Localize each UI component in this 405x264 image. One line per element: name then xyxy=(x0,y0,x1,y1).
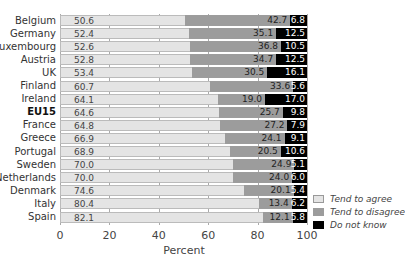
category-label: France xyxy=(23,119,56,131)
value-label: 50.6 xyxy=(74,15,94,27)
bar-segment-dk: 7.9 xyxy=(287,120,307,131)
gridline xyxy=(307,14,308,225)
bar-row: 70.024.95.1 xyxy=(60,159,307,170)
bar-segment-disagree: 19.0 xyxy=(218,94,265,105)
value-label: 34.7 xyxy=(253,53,273,65)
legend-label: Tend to disagree xyxy=(330,207,405,217)
bar-row: 82.112.15.8 xyxy=(60,212,307,223)
value-label: 42.7 xyxy=(267,14,287,26)
bar-segment-dk: 9.1 xyxy=(285,133,307,144)
bar-segment-dk: 9.8 xyxy=(283,107,307,118)
bar-row: 52.435.112.5 xyxy=(60,28,307,39)
value-label: 70.0 xyxy=(74,172,94,184)
bar-row: 66.924.19.1 xyxy=(60,133,307,144)
bar-segment-disagree: 34.7 xyxy=(190,54,276,65)
value-label: 25.7 xyxy=(260,106,280,118)
value-label: 64.6 xyxy=(74,107,94,119)
legend-swatch xyxy=(313,221,324,229)
legend-item: Tend to disagree xyxy=(313,206,405,218)
legend-label: Tend to agree xyxy=(330,194,392,204)
bar-segment-dk: 10.6 xyxy=(281,146,307,157)
bar-row: 64.119.017.0 xyxy=(60,94,307,105)
value-label: 24.9 xyxy=(271,158,291,170)
value-label: 64.1 xyxy=(74,94,94,106)
bar-segment-disagree: 33.6 xyxy=(210,81,293,92)
category-label: Greece xyxy=(20,132,56,144)
bar-segment-disagree: 20.1 xyxy=(244,185,294,196)
value-label: 27.2 xyxy=(264,119,284,131)
category-label: Austria xyxy=(21,54,56,66)
legend-item: Do not know xyxy=(313,219,405,231)
x-tick-label: 40 xyxy=(152,229,166,242)
bar-segment-agree: 52.8 xyxy=(60,54,190,65)
plot-area: 50.642.76.852.435.112.552.636.810.552.83… xyxy=(60,14,307,225)
value-label: 33.6 xyxy=(270,80,290,92)
bar-segment-agree: 70.0 xyxy=(60,159,233,170)
value-label: 36.8 xyxy=(258,40,278,52)
bar-segment-dk: 6.0 xyxy=(292,172,307,183)
bar-row: 52.636.810.5 xyxy=(60,41,307,52)
value-label: 6.8 xyxy=(291,14,305,26)
bar-segment-agree: 82.1 xyxy=(60,212,263,223)
bar-segment-disagree: 24.0 xyxy=(233,172,292,183)
value-label: 52.8 xyxy=(74,54,94,66)
bar-segment-agree: 68.9 xyxy=(60,146,230,157)
legend-swatch xyxy=(313,195,324,203)
value-label: 19.0 xyxy=(242,93,262,105)
value-label: 16.1 xyxy=(285,66,305,78)
bar-row: 50.642.76.8 xyxy=(60,15,307,26)
bar-segment-agree: 53.4 xyxy=(60,67,192,78)
value-label: 5.1 xyxy=(291,158,305,170)
bar-segment-disagree: 35.1 xyxy=(189,28,276,39)
value-label: 68.9 xyxy=(74,146,94,158)
bar-segment-agree: 60.7 xyxy=(60,81,210,92)
value-label: 20.1 xyxy=(271,184,291,196)
bar-row: 70.024.06.0 xyxy=(60,172,307,183)
bar-segment-disagree: 13.4 xyxy=(259,198,292,209)
value-label: 17.0 xyxy=(285,93,305,105)
bar-segment-agree: 64.8 xyxy=(60,120,220,131)
bar-segment-dk: 5.6 xyxy=(293,81,307,92)
value-label: 12.5 xyxy=(285,53,305,65)
bar-segment-disagree: 20.5 xyxy=(230,146,281,157)
bar-row: 68.920.510.6 xyxy=(60,146,307,157)
x-axis-label: Percent xyxy=(163,244,204,257)
bar-segment-dk: 10.5 xyxy=(281,41,307,52)
value-label: 74.6 xyxy=(74,185,94,197)
value-label: 5.4 xyxy=(291,184,305,196)
bar-segment-disagree: 36.8 xyxy=(190,41,281,52)
category-label: Italy xyxy=(34,198,56,210)
category-label: Sweden xyxy=(16,159,56,171)
category-label: UK xyxy=(42,67,56,79)
bar-segment-agree: 64.6 xyxy=(60,107,219,118)
bar-segment-dk: 5.1 xyxy=(294,159,307,170)
value-label: 7.9 xyxy=(291,119,305,131)
bar-segment-disagree: 24.1 xyxy=(225,133,284,144)
x-tick-label: 80 xyxy=(251,229,265,242)
bar-segment-agree: 66.9 xyxy=(60,133,225,144)
bar-row: 53.430.516.1 xyxy=(60,67,307,78)
value-label: 10.5 xyxy=(285,40,305,52)
value-label: 82.1 xyxy=(74,212,94,224)
category-label: Luxembourg xyxy=(0,41,56,53)
value-label: 24.0 xyxy=(269,171,289,183)
bar-segment-disagree: 27.2 xyxy=(220,120,287,131)
value-label: 30.5 xyxy=(244,66,264,78)
value-label: 60.7 xyxy=(74,81,94,93)
value-label: 80.4 xyxy=(74,198,94,210)
value-label: 9.8 xyxy=(291,106,305,118)
bar-segment-agree: 70.0 xyxy=(60,172,233,183)
legend-swatch xyxy=(313,208,324,216)
bar-segment-agree: 52.4 xyxy=(60,28,189,39)
category-label: Belgium xyxy=(15,15,56,27)
value-label: 12.5 xyxy=(285,27,305,39)
bar-segment-agree: 80.4 xyxy=(60,198,259,209)
category-label: Portugal xyxy=(15,146,56,158)
value-label: 9.1 xyxy=(291,132,305,144)
category-label: EU15 xyxy=(27,106,56,118)
bar-segment-agree: 74.6 xyxy=(60,185,244,196)
x-tick-label: 0 xyxy=(57,229,64,242)
value-label: 20.5 xyxy=(258,145,278,157)
value-label: 53.4 xyxy=(74,67,94,79)
